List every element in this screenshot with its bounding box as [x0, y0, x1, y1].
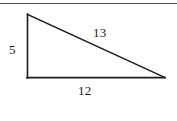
label-vertical-leg: 5	[9, 43, 16, 56]
hypotenuse-line	[28, 15, 166, 78]
label-horizontal-leg: 12	[78, 84, 92, 97]
label-hypotenuse: 13	[93, 26, 107, 39]
right-triangle-shape	[0, 0, 177, 121]
triangle-figure: 5 13 12	[0, 0, 177, 121]
